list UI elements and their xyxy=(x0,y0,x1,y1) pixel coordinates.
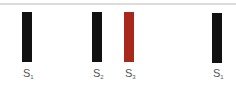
label-subscript: 3 xyxy=(132,74,135,80)
label-s1-first: S1 xyxy=(23,67,34,83)
label-subscript: 2 xyxy=(100,74,103,80)
label-s3: S3 xyxy=(125,67,136,83)
label-subscript: 1 xyxy=(220,74,223,80)
bar-s3-highlighted xyxy=(124,12,134,62)
label-s2: S2 xyxy=(93,67,104,83)
label-s1-last: S1 xyxy=(213,67,224,83)
bar-s1-first xyxy=(22,12,32,62)
label-subscript: 1 xyxy=(30,74,33,80)
bar-s2 xyxy=(92,12,102,62)
bar-s1-last xyxy=(212,13,222,63)
top-divider xyxy=(0,3,236,5)
